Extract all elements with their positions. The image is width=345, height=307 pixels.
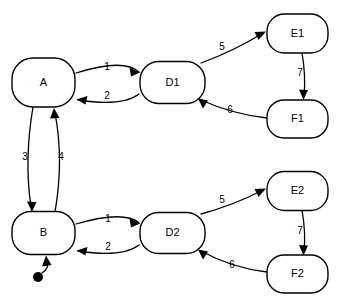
initial-state-transition[interactable] bbox=[33, 256, 52, 283]
arrowhead-icon bbox=[255, 32, 267, 41]
state-node-f2[interactable]: F2 bbox=[267, 255, 328, 293]
arrowhead-icon bbox=[27, 202, 37, 213]
transition-2-d1-to-a-label: 2 bbox=[104, 90, 110, 101]
state-node-a-label: A bbox=[40, 76, 48, 88]
state-node-f2-label: F2 bbox=[291, 267, 304, 279]
transition-4-b-to-a-path bbox=[55, 113, 60, 212]
transition-5-d1-to-e1[interactable]: 5 bbox=[201, 32, 266, 64]
arrowhead-icon bbox=[299, 245, 308, 256]
transition-5-d2-to-e2-label: 5 bbox=[219, 194, 225, 205]
state-diagram-canvas: 1 2 5 7 6 3 bbox=[0, 0, 345, 307]
state-node-e1-label: E1 bbox=[291, 27, 304, 39]
transition-4-b-to-a[interactable]: 4 bbox=[50, 108, 64, 212]
state-node-f1-label: F1 bbox=[291, 112, 304, 124]
transition-2-d2-to-b[interactable]: 2 bbox=[77, 241, 140, 256]
transition-3-a-to-b-label: 3 bbox=[22, 151, 28, 162]
state-node-b-label: B bbox=[40, 226, 47, 238]
transition-6-f1-to-d1[interactable]: 6 bbox=[198, 99, 267, 119]
transition-3-a-to-b-path bbox=[28, 107, 33, 207]
transition-4-b-to-a-label: 4 bbox=[58, 151, 64, 162]
transition-1-b-to-d2[interactable]: 1 bbox=[76, 213, 140, 228]
transition-7-e2-to-f2-label: 7 bbox=[297, 225, 303, 236]
state-node-d1-label: D1 bbox=[165, 76, 179, 88]
state-node-d2[interactable]: D2 bbox=[140, 213, 205, 254]
transition-2-d2-to-b-label: 2 bbox=[105, 241, 111, 252]
transition-6-f1-to-d1-label: 6 bbox=[227, 104, 233, 115]
transition-5-d1-to-e1-label: 5 bbox=[219, 41, 225, 52]
arrowhead-icon bbox=[50, 108, 60, 119]
transition-7-e1-to-f1-label: 7 bbox=[297, 67, 303, 78]
state-node-e2[interactable]: E2 bbox=[267, 172, 328, 211]
transition-6-f2-to-d2[interactable]: 6 bbox=[198, 250, 267, 273]
transition-1-a-to-d1[interactable]: 1 bbox=[76, 61, 140, 77]
transition-1-a-to-d1-label: 1 bbox=[104, 61, 110, 72]
state-diagram: 1 2 5 7 6 3 bbox=[0, 0, 345, 307]
arrowhead-icon bbox=[77, 96, 88, 105]
transition-5-d2-to-e2[interactable]: 5 bbox=[201, 189, 266, 215]
transition-7-e1-to-f1[interactable]: 7 bbox=[297, 53, 308, 100]
transition-7-e2-to-f2[interactable]: 7 bbox=[297, 210, 308, 256]
state-node-e2-label: E2 bbox=[291, 184, 304, 196]
arrowhead-icon bbox=[198, 99, 208, 109]
transition-1-b-to-d2-label: 1 bbox=[105, 213, 111, 224]
state-node-d2-label: D2 bbox=[165, 226, 179, 238]
state-node-d1[interactable]: D1 bbox=[140, 62, 205, 104]
arrowhead-icon bbox=[299, 90, 308, 101]
state-node-a[interactable]: A bbox=[12, 58, 75, 107]
transition-5-d2-to-e2-path bbox=[201, 190, 263, 214]
transition-2-d1-to-a[interactable]: 2 bbox=[77, 90, 140, 105]
transition-3-a-to-b[interactable]: 3 bbox=[22, 107, 36, 212]
transition-6-f2-to-d2-label: 6 bbox=[229, 259, 235, 270]
transition-6-f1-to-d1-path bbox=[201, 100, 267, 118]
initial-state-dot-icon bbox=[33, 272, 43, 282]
state-node-e1[interactable]: E1 bbox=[267, 14, 328, 53]
arrowhead-icon bbox=[42, 256, 52, 267]
arrowhead-icon bbox=[77, 247, 88, 256]
state-node-f1[interactable]: F1 bbox=[267, 100, 328, 138]
transition-5-d1-to-e1-path bbox=[201, 33, 263, 63]
state-node-b[interactable]: B bbox=[12, 212, 75, 255]
